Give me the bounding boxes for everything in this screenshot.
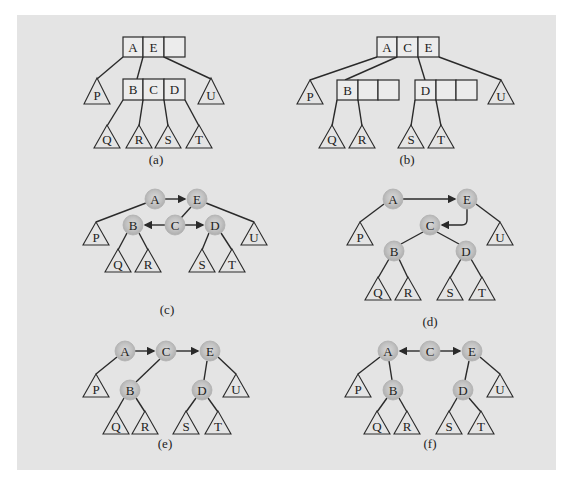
tree-node: D [205,215,225,235]
subtree-label: Q [327,132,337,147]
key-label: A [128,40,138,55]
subtree-label: R [135,132,144,147]
tree-node: A [115,341,135,361]
subtree-label: T [214,419,222,434]
key-label: B [129,82,138,97]
tree-node: B [123,215,143,235]
svg-text:C: C [171,218,180,233]
subtree-label: Q [373,285,383,300]
panel-caption: (b) [399,152,414,167]
tree-node: D [453,380,473,400]
subtree-label: P [93,88,100,103]
key-label: B [343,83,352,98]
key-label: E [150,40,158,55]
panel-caption: (d) [422,314,437,329]
subtree-label: P [92,230,99,245]
svg-text:E: E [193,192,201,207]
subtree-label: R [141,419,150,434]
panel-caption: (c) [160,302,174,317]
svg-text:A: A [388,192,398,207]
subtree-label: R [403,419,412,434]
panel-caption: (f) [424,436,437,451]
key-label: D [421,83,430,98]
svg-text:E: E [463,192,471,207]
tree-node: A [383,189,403,209]
subtree-label: P [356,230,363,245]
subtree-label: P [92,382,99,397]
tree-node: C [420,341,440,361]
svg-text:A: A [120,344,130,359]
subtree-label: Q [111,419,121,434]
svg-text:D: D [458,383,467,398]
subtree-label: S [164,132,171,147]
svg-text:C: C [426,218,435,233]
svg-text:D: D [210,218,219,233]
subtree-label: Q [372,419,382,434]
svg-text:B: B [129,218,138,233]
tree-node: B [120,380,140,400]
tree-node: E [457,189,477,209]
subtree-label: U [495,382,505,397]
subtree-label: S [182,419,189,434]
svg-text:B: B [390,244,399,259]
svg-text:C: C [426,344,435,359]
svg-text:E: E [206,344,214,359]
subtree-label: Q [102,132,112,147]
tree-node: E [200,341,220,361]
btree-node-right: D [415,80,477,100]
subtree-label: R [358,132,367,147]
svg-text:A: A [383,344,393,359]
subtree-label: T [195,132,203,147]
subtree-label: U [206,88,216,103]
tree-node: E [462,341,482,361]
subtree-label: S [407,132,414,147]
subtree-label: T [478,285,486,300]
subtree-label: U [496,89,506,104]
subtree-label: T [477,419,485,434]
subtree-label: P [306,89,313,104]
subtree-label: S [446,285,453,300]
subtree-label: U [495,230,505,245]
svg-text:D: D [461,244,470,259]
tree-node: D [456,241,476,261]
figure: A E B C D P Q R S T U (a) [0,0,573,487]
svg-text:E: E [468,344,476,359]
subtree-label: S [445,419,452,434]
svg-text:B: B [126,383,135,398]
svg-text:B: B [389,383,398,398]
subtree-label: T [228,257,236,272]
subtree-label: U [231,382,241,397]
subtree-label: R [144,257,153,272]
btree-node-top: A C E [377,37,439,57]
subtree-label: R [404,285,413,300]
key-label: E [425,40,433,55]
svg-text:C: C [162,344,171,359]
svg-text:A: A [150,192,160,207]
tree-node: A [378,341,398,361]
key-label: C [403,40,412,55]
btree-node-left: B [337,80,399,100]
subtree-label: S [198,257,205,272]
panel-caption: (a) [149,152,163,167]
tree-node: B [383,380,403,400]
tree-node: C [165,215,185,235]
btree-node-top: A E [123,37,185,57]
key-label: D [170,82,179,97]
subtree-label: U [249,230,259,245]
subtree-label: Q [113,257,123,272]
tree-node: D [192,380,212,400]
tree-node: E [187,189,207,209]
subtree-label: T [437,132,445,147]
subtree-label: P [354,382,361,397]
btree-node-mid: B C D [123,79,185,100]
tree-node: C [156,341,176,361]
tree-node: C [420,215,440,235]
key-label: A [382,40,392,55]
panel-caption: (e) [158,436,172,451]
svg-text:D: D [197,383,206,398]
tree-node: A [145,189,165,209]
key-label: C [149,82,158,97]
tree-node: B [384,241,404,261]
